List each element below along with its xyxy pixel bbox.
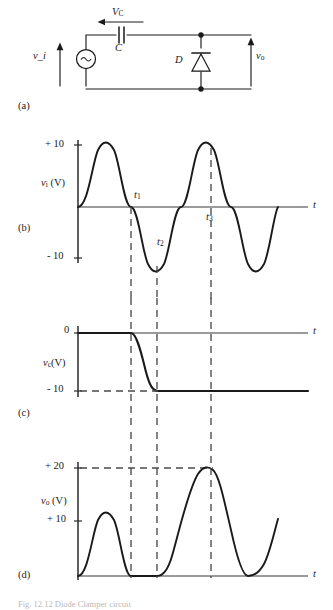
circuit-capacitor-voltage-label: VC <box>112 6 123 18</box>
circuit-diode-label: D <box>175 54 183 65</box>
vc-arrow <box>98 19 144 25</box>
panel-c-label-minus10: - 10 <box>47 383 64 394</box>
panel-b-label-minus10: - 10 <box>47 250 64 261</box>
panel-tag-a: (a) <box>18 100 30 111</box>
vo-arrow <box>248 38 255 87</box>
panel-d-plot <box>74 432 308 580</box>
vi-arrow <box>57 43 64 87</box>
circuit-source-label-base: v_i <box>33 50 46 61</box>
circuit-source-label: v_i <box>33 50 46 61</box>
circuit-output-label: vo <box>256 50 264 62</box>
panel-b-plot <box>74 140 308 300</box>
panel-d-label-plus20: + 20 <box>45 460 64 471</box>
panel-c-plot <box>74 298 308 425</box>
panel-b-x-axis-label: t <box>313 199 316 210</box>
panel-c-label-zero: 0 <box>64 324 69 335</box>
panel-d-y-axis-label: vo (V) <box>41 495 67 507</box>
panel-tag-d: (d) <box>18 569 30 580</box>
panel-b-label-plus10: + 10 <box>45 138 64 149</box>
circuit-diagram <box>57 19 255 92</box>
panel-d-label-plus10: + 10 <box>47 513 66 524</box>
panel-c-vc-curve <box>78 333 308 391</box>
panel-b-y-axis-label: vi (V) <box>41 177 65 189</box>
figure-caption: Fig. 12.12 Diode Clamper circuit <box>18 599 131 609</box>
panel-tag-b: (b) <box>18 222 30 233</box>
panel-tag-c: (c) <box>18 407 30 418</box>
panel-b-marker-t3: t3 <box>206 211 213 223</box>
diode-triangle <box>192 54 210 71</box>
node-dot-top <box>198 32 203 37</box>
panel-c-x-axis-label: t <box>313 325 316 336</box>
panel-d-vo-curve <box>78 467 278 576</box>
circuit-output-label-sub: o <box>261 53 265 62</box>
node-dot-bottom <box>198 86 203 91</box>
panel-b-marker-t1: t1 <box>134 189 141 201</box>
panel-b-marker-t2: t2 <box>157 236 164 248</box>
circuit-capacitor-label: C <box>115 42 122 53</box>
panel-c-y-axis-label: vc(V) <box>43 357 66 369</box>
panel-d-x-axis-label: t <box>313 568 316 579</box>
